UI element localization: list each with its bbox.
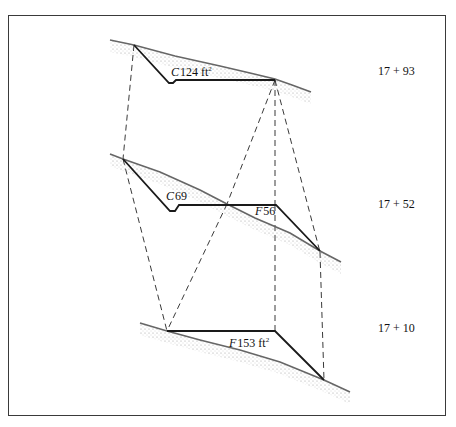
sections: C124 ft217 + 93C69F5617 + 52F153 ft217 +…: [110, 40, 415, 404]
station-label: 17 + 10: [378, 321, 415, 335]
cross-section-3: F153 ft217 + 10: [140, 321, 415, 404]
dashed-connector-line: [227, 80, 275, 204]
area-label: F153 ft2: [228, 336, 270, 350]
area-label: C124 ft2: [171, 65, 212, 79]
fill-area-label: F56: [254, 204, 275, 218]
cross-section-diagram: C124 ft217 + 93C69F5617 + 52F153 ft217 +…: [0, 0, 456, 427]
area-label: C69: [166, 189, 187, 203]
dashed-connector-line: [320, 252, 324, 380]
dashed-connector-line: [123, 159, 167, 331]
ground-stipple: [110, 154, 341, 274]
cross-section-2: C69F5617 + 52: [110, 154, 415, 274]
station-label: 17 + 52: [378, 197, 415, 211]
station-label: 17 + 93: [378, 64, 415, 78]
dashed-connector-line: [123, 45, 134, 159]
cross-section-1: C124 ft217 + 93: [110, 40, 415, 104]
dashed-connector-line: [167, 204, 227, 331]
